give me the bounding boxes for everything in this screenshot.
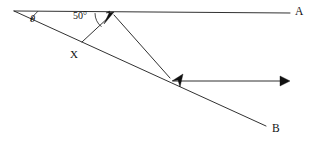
label-point-a: A <box>295 6 303 18</box>
label-angle-theta: θ <box>30 14 35 25</box>
label-angle-fifty: 50° <box>73 11 87 21</box>
label-point-x: X <box>70 49 78 60</box>
segment-top-vertex-to-mid-vertex <box>114 15 170 78</box>
line-apex-to-A <box>14 11 290 13</box>
mid-arrowhead-icon <box>172 74 183 87</box>
geometry-canvas <box>0 0 310 149</box>
label-point-b: B <box>272 123 280 135</box>
top-arrowhead-icon <box>104 11 114 24</box>
right-arrowhead-icon <box>280 76 290 86</box>
line-apex-to-B <box>14 11 266 126</box>
geometry-figure: A B X θ 50° <box>0 0 310 149</box>
